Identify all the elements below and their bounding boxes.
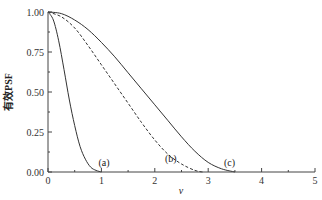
- psf-chart: (a)(b)(c) 0123450.000.250.500.751.00 v 有…: [0, 0, 322, 200]
- x-tick-label: 2: [152, 175, 157, 186]
- x-tick-label: 0: [46, 175, 51, 186]
- y-axis-label: 有效PSF: [2, 73, 14, 111]
- x-tick-label: 3: [206, 175, 211, 186]
- curve-b: [48, 12, 203, 172]
- x-tick-label: 4: [259, 175, 264, 186]
- curve-c: [48, 12, 235, 172]
- curve-label-a: (a): [99, 157, 110, 169]
- x-axis-label: v: [179, 185, 184, 196]
- curve-a: [48, 12, 101, 172]
- y-tick-label: 0.25: [27, 127, 45, 138]
- y-tick-label: 0.75: [27, 47, 45, 58]
- plot-area: (a)(b)(c): [48, 12, 235, 172]
- curve-label-b: (b): [165, 153, 177, 165]
- y-tick-label: 0.00: [27, 167, 45, 178]
- y-tick-label: 1.00: [27, 7, 45, 18]
- y-tick-label: 0.50: [27, 87, 45, 98]
- curve-label-c: (c): [224, 157, 235, 169]
- x-tick-label: 5: [313, 175, 318, 186]
- x-tick-label: 1: [99, 175, 104, 186]
